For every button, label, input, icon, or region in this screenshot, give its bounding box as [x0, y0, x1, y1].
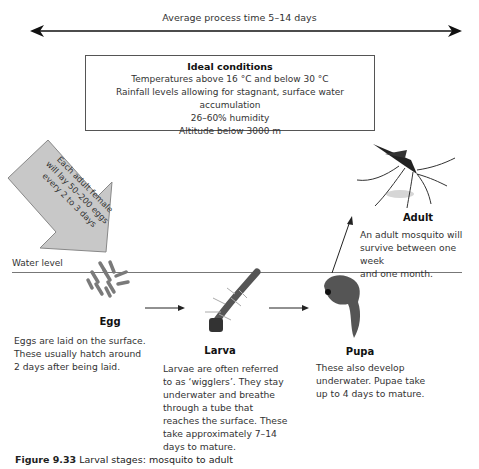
condition-temperature: Temperatures above 16 °C and below 30 °C: [86, 73, 374, 86]
egg-line: These usually hatch around: [14, 347, 146, 360]
egg-to-larva-arrow: [144, 303, 186, 313]
figure-number: Figure 9.33: [15, 454, 76, 465]
pupa-to-adult-arrow: [328, 215, 358, 275]
larva-line: through a tube that: [163, 401, 287, 414]
larva-illustration: [195, 268, 265, 338]
egg-line: 2 days after being laid.: [14, 360, 146, 373]
larva-to-pupa-arrow: [268, 303, 310, 313]
water-level-label: Water level: [12, 258, 63, 268]
stage-description-larva: Larvae are often referred to as ‘wiggler…: [163, 362, 287, 453]
pupa-illustration: [318, 272, 373, 342]
figure-caption-text: Larval stages: mosquito to adult: [79, 454, 233, 465]
stage-description-pupa: These also develop underwater. Pupae tak…: [316, 361, 425, 400]
conditions-title: Ideal conditions: [86, 60, 374, 73]
stage-description-egg: Eggs are laid on the surface. These usua…: [14, 334, 146, 373]
larva-line: take approximately 7–14: [163, 427, 287, 440]
larva-line: days to mature.: [163, 440, 287, 453]
adult-line: and one month.: [360, 267, 479, 280]
larva-line: Larvae are often referred: [163, 362, 287, 375]
adult-line: survive between one week: [360, 241, 479, 267]
adult-mosquito-illustration: [355, 130, 470, 210]
figure-caption: Figure 9.33 Larval stages: mosquito to a…: [15, 454, 233, 465]
larva-line: to as ‘wigglers’. They stay: [163, 375, 287, 388]
larva-line: reaches the surface. These: [163, 414, 287, 427]
stage-title-pupa: Pupa: [330, 346, 390, 357]
pupa-line: underwater. Pupae take: [316, 374, 425, 387]
pupa-line: up to 4 days to mature.: [316, 387, 425, 400]
timeline-double-arrow: [0, 22, 479, 40]
egg-line: Eggs are laid on the surface.: [14, 334, 146, 347]
condition-altitude: Altitude below 3000 m: [86, 125, 374, 138]
adult-line: An adult mosquito will: [360, 228, 479, 241]
stage-title-larva: Larva: [190, 345, 250, 356]
pupa-line: These also develop: [316, 361, 425, 374]
larva-line: underwater and breathe: [163, 388, 287, 401]
condition-rainfall: Rainfall levels allowing for stagnant, s…: [86, 86, 374, 112]
stage-title-egg: Egg: [80, 316, 140, 327]
ideal-conditions-box: Ideal conditions Temperatures above 16 °…: [85, 55, 375, 131]
stage-description-adult: An adult mosquito will survive between o…: [360, 228, 479, 280]
eggs-illustration: [80, 258, 140, 300]
stage-title-adult: Adult: [388, 212, 448, 223]
condition-humidity: 26–60% humidity: [86, 112, 374, 125]
